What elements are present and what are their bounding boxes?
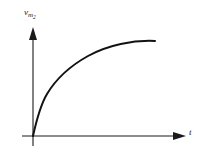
y-axis-label-sub: m2 <box>28 11 36 19</box>
figure-container: vm2 t <box>0 0 205 166</box>
y-axis-arrow-icon <box>29 27 37 40</box>
y-axis-label-sub-number: 2 <box>33 14 36 20</box>
x-axis-label: t <box>189 128 192 137</box>
y-axis-label: vm2 <box>24 8 36 20</box>
plot-canvas <box>0 0 205 166</box>
data-curve <box>33 41 155 136</box>
x-axis-arrow-icon <box>173 132 186 140</box>
